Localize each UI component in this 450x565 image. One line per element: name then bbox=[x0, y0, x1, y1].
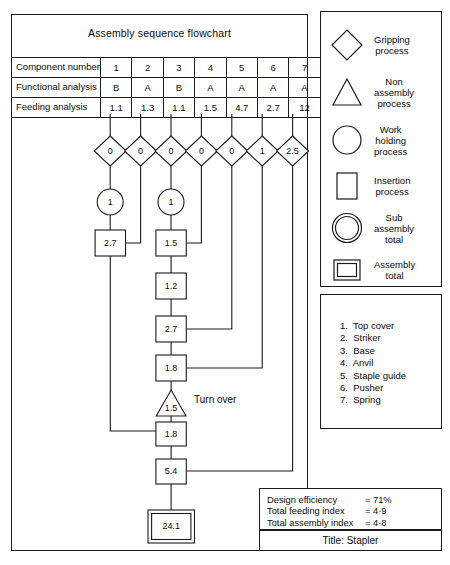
gripping-diamond-4: 0 bbox=[185, 136, 217, 166]
insertion-box-4: 1.8 bbox=[156, 355, 186, 381]
gripping-value-7: 2.5 bbox=[286, 146, 299, 156]
circle-icon bbox=[320, 123, 374, 157]
gripping-value-2: 0 bbox=[138, 146, 143, 156]
legend-item-work-holding: Workholdingprocess bbox=[0, 118, 122, 162]
gripping-diamond-2: 0 bbox=[125, 136, 157, 166]
insertion-5-value: 1.8 bbox=[165, 429, 178, 439]
turn-over-label: Turn over bbox=[194, 394, 237, 405]
insertion-box-1: 1.5 bbox=[156, 230, 186, 256]
link-col4-to-insertion-1 bbox=[186, 166, 201, 243]
list-item: 3. Base bbox=[340, 345, 406, 357]
insertion-box-6: 5.4 bbox=[156, 459, 186, 484]
work-holding-value-2: 1 bbox=[168, 197, 173, 207]
legend-label-non-assembly: Nonassemblyprocess bbox=[374, 76, 417, 109]
metric-value: = 4·9 bbox=[365, 506, 386, 517]
legend-item-insertion: Insertionprocess bbox=[0, 167, 122, 205]
list-item: 5. Staple guide bbox=[340, 370, 406, 382]
insertion-3-value: 2.7 bbox=[165, 324, 178, 334]
metric-label: Design efficiency bbox=[267, 495, 365, 506]
gripping-value-4: 0 bbox=[199, 146, 204, 156]
components-list: 1. Top cover 2. Striker 3. Base 4. Anvil… bbox=[340, 320, 406, 407]
metric-total-feeding-index: Total feeding index = 4·9 bbox=[267, 506, 392, 517]
double-rectangle-icon bbox=[320, 256, 374, 284]
gripping-diamond-5: 0 bbox=[216, 136, 248, 166]
legend-label-sub-assembly-total: Subassemblytotal bbox=[374, 212, 417, 245]
legend-item-gripping: Grippingprocess bbox=[0, 24, 122, 66]
legend-item-sub-assembly-total: Subassemblytotal bbox=[0, 206, 122, 250]
gripping-value-5: 0 bbox=[229, 146, 234, 156]
insertion-2-value: 1.2 bbox=[165, 281, 178, 291]
insertion-6-value: 5.4 bbox=[165, 466, 178, 476]
legend-label-insertion: Insertionprocess bbox=[374, 175, 413, 197]
insertion-1-value: 1.5 bbox=[165, 238, 178, 248]
triangle-icon bbox=[320, 76, 374, 108]
legend-label-work-holding: Workholdingprocess bbox=[374, 124, 410, 157]
list-item: 6. Pusher bbox=[340, 382, 406, 394]
list-item: 7. Spring bbox=[340, 394, 406, 406]
metrics-list: Design efficiency = 71% Total feeding in… bbox=[267, 495, 392, 529]
insertion-box-3: 2.7 bbox=[156, 316, 186, 342]
link-col7-to-insertion-6 bbox=[186, 166, 292, 471]
diamond-icon bbox=[320, 28, 374, 62]
assembly-total-value: 24.1 bbox=[162, 521, 180, 531]
assembly-total-node: 24.1 bbox=[148, 510, 195, 543]
legend-item-non-assembly: Nonassemblyprocess bbox=[0, 70, 122, 114]
double-circle-icon bbox=[320, 211, 374, 245]
work-holding-circle-2: 1 bbox=[158, 189, 184, 215]
title-bar-text: Title: Stapler bbox=[259, 530, 442, 551]
insertion-4-value: 1.8 bbox=[165, 363, 178, 373]
legend-label-gripping: Grippingprocess bbox=[374, 34, 413, 56]
gripping-value-6: 1 bbox=[260, 146, 265, 156]
non-assembly-triangle: 1.5 bbox=[156, 390, 186, 416]
metric-total-assembly-index: Total assembly index = 4·8 bbox=[267, 518, 392, 529]
link-col2-to-insertion-left bbox=[126, 166, 141, 243]
gripping-value-3: 0 bbox=[168, 146, 173, 156]
metric-value: = 71% bbox=[365, 495, 392, 506]
gripping-diamond-3: 0 bbox=[155, 136, 187, 166]
list-item: 1. Top cover bbox=[340, 320, 406, 332]
list-item: 2. Striker bbox=[340, 332, 406, 344]
column-droplines bbox=[110, 114, 292, 136]
insertion-box-2: 1.2 bbox=[156, 273, 186, 299]
legend-item-assembly-total: Assemblytotal bbox=[0, 254, 122, 286]
list-item: 4. Anvil bbox=[340, 357, 406, 369]
turn-over-value: 1.5 bbox=[165, 403, 178, 413]
metric-design-efficiency: Design efficiency = 71% bbox=[267, 495, 392, 506]
metric-label: Total feeding index bbox=[267, 506, 365, 517]
rectangle-icon bbox=[320, 170, 374, 202]
metric-label: Total assembly index bbox=[267, 518, 365, 529]
legend-label-assembly-total: Assemblytotal bbox=[374, 259, 418, 281]
gripping-diamond-6: 1 bbox=[246, 136, 278, 166]
insertion-box-5: 1.8 bbox=[156, 422, 186, 446]
metric-value: = 4·8 bbox=[365, 518, 386, 529]
gripping-diamond-7: 2.5 bbox=[277, 136, 309, 166]
link-col6-to-insertion-4 bbox=[186, 166, 262, 368]
link-col5-to-insertion-3 bbox=[186, 166, 232, 329]
